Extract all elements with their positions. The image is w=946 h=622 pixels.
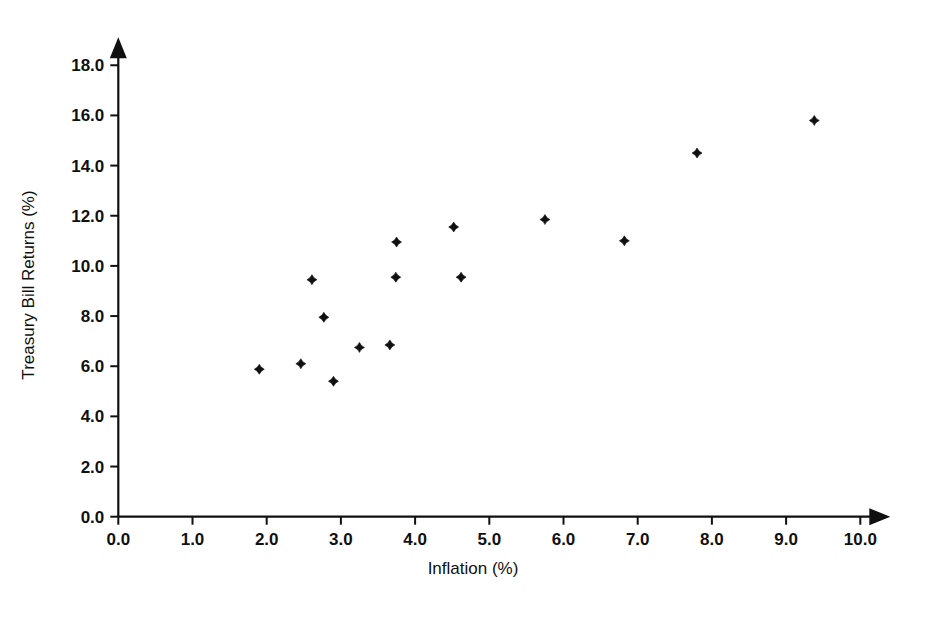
y-axis-tick-label: 4.0	[81, 407, 105, 426]
y-axis-tick-label: 18.0	[71, 56, 104, 75]
y-axis-tick-label: 16.0	[71, 106, 104, 125]
x-axis-tick-label: 5.0	[477, 530, 501, 549]
y-axis-tick-label: 14.0	[71, 157, 104, 176]
y-axis-tick-label: 0.0	[81, 508, 105, 527]
x-axis-tick-label: 10.0	[844, 530, 877, 549]
x-axis-tick-label: 2.0	[255, 530, 279, 549]
chart-background	[0, 0, 946, 622]
scatter-chart: 0.02.04.06.08.010.012.014.016.018.0 0.01…	[0, 0, 946, 622]
x-axis-tick-label: 0.0	[106, 530, 130, 549]
y-axis-tick-label: 10.0	[71, 257, 104, 276]
x-axis-tick-label: 3.0	[329, 530, 353, 549]
y-axis-tick-label: 2.0	[81, 458, 105, 477]
x-axis-title: Inflation (%)	[428, 559, 519, 578]
x-axis-tick-label: 8.0	[700, 530, 724, 549]
y-axis-tick-label: 8.0	[81, 307, 105, 326]
x-axis-tick-label: 9.0	[774, 530, 798, 549]
x-axis-tick-label: 1.0	[181, 530, 205, 549]
x-axis-tick-label: 6.0	[552, 530, 576, 549]
plot-canvas: 0.02.04.06.08.010.012.014.016.018.0 0.01…	[0, 0, 946, 622]
x-axis-tick-label: 4.0	[403, 530, 427, 549]
y-axis-title: Treasury Bill Returns (%)	[19, 190, 38, 379]
y-axis-tick-label: 6.0	[81, 357, 105, 376]
y-axis-tick-label: 12.0	[71, 207, 104, 226]
x-axis-tick-label: 7.0	[626, 530, 650, 549]
